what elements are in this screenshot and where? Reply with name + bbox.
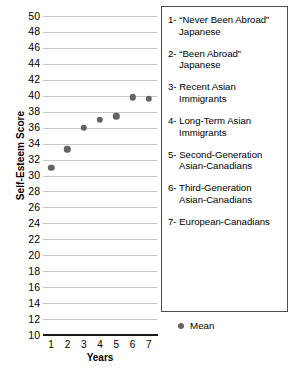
legend-entry: 2- “Been Abroad” Japanese	[168, 48, 287, 71]
y-axis-tick-label: 10	[18, 330, 40, 341]
x-axis-tick-label: 1	[43, 339, 59, 350]
legend-entry: 6- Third-Generation Asian-Canadians	[168, 182, 287, 205]
legend-entry: 3- Recent Asian Immigrants	[168, 81, 287, 104]
gridline	[43, 287, 157, 288]
y-axis-tick-label: 36	[18, 122, 40, 133]
x-axis-tick-label: 4	[92, 339, 108, 350]
x-axis-title: Years	[43, 352, 157, 363]
y-axis-tick-label: 34	[18, 138, 40, 149]
y-axis-tick-label: 48	[18, 26, 40, 37]
data-point	[64, 146, 70, 152]
x-axis-tick-label: 7	[141, 339, 157, 350]
legend-entry: 5- Second-Generation Asian-Canadians	[168, 149, 287, 172]
data-point	[97, 116, 103, 122]
gridline	[43, 112, 157, 113]
gridline	[43, 96, 157, 97]
gridline	[43, 319, 157, 320]
gridline	[43, 128, 157, 129]
gridline	[43, 239, 157, 240]
y-axis-tick-label: 22	[18, 234, 40, 245]
legend-box: 1- “Never Been Abroad” Japanese2- “Been …	[161, 6, 288, 312]
plot-area	[43, 16, 157, 335]
data-point	[81, 124, 87, 130]
x-axis-line	[43, 334, 158, 336]
scatter-chart-figure: Self-Esteem Score 1012141618202224262830…	[0, 0, 292, 373]
y-axis-tick-label: 28	[18, 186, 40, 197]
mean-marker-label: Mean	[190, 320, 215, 331]
gridline	[43, 191, 157, 192]
y-axis-tick-label: 42	[18, 74, 40, 85]
y-axis-tick-label: 18	[18, 266, 40, 277]
y-axis-tick-label: 40	[18, 90, 40, 101]
gridline	[43, 64, 157, 65]
y-axis-tick-label: 44	[18, 58, 40, 69]
gridline	[43, 160, 157, 161]
y-axis-tick-label: 24	[18, 218, 40, 229]
y-axis-tick-label: 14	[18, 298, 40, 309]
gridline	[43, 80, 157, 81]
x-axis-tick-label: 3	[76, 339, 92, 350]
gridline	[43, 255, 157, 256]
legend-entry: 4- Long-Term Asian Immigrants	[168, 115, 287, 138]
y-axis-tick-label: 12	[18, 314, 40, 325]
x-axis-tick-label: 2	[59, 339, 75, 350]
y-axis-tick-label: 16	[18, 282, 40, 293]
gridline	[43, 176, 157, 177]
mean-marker-legend: Mean	[178, 320, 215, 331]
x-axis-tick-label: 6	[125, 339, 141, 350]
y-axis-tick-label: 46	[18, 42, 40, 53]
gridline	[43, 223, 157, 224]
legend-entry: 1- “Never Been Abroad” Japanese	[168, 14, 287, 37]
gridline	[43, 207, 157, 208]
data-point	[146, 96, 152, 102]
gridline	[43, 48, 157, 49]
data-point	[48, 164, 54, 170]
y-axis-tick-label: 20	[18, 250, 40, 261]
legend-entry: 7- European-Canadians	[168, 216, 287, 228]
x-axis-tick-label: 5	[108, 339, 124, 350]
gridline	[43, 303, 157, 304]
y-axis-tick-label: 32	[18, 154, 40, 165]
mean-marker-icon	[178, 323, 184, 329]
data-point	[113, 113, 119, 119]
y-axis-tick-label: 30	[18, 170, 40, 181]
y-axis-tick-label: 26	[18, 202, 40, 213]
gridline	[43, 144, 157, 145]
gridline	[43, 271, 157, 272]
gridline	[43, 16, 157, 17]
data-point	[129, 94, 135, 100]
gridline	[43, 32, 157, 33]
y-axis-tick-label: 50	[18, 11, 40, 22]
y-axis-tick-label: 38	[18, 106, 40, 117]
